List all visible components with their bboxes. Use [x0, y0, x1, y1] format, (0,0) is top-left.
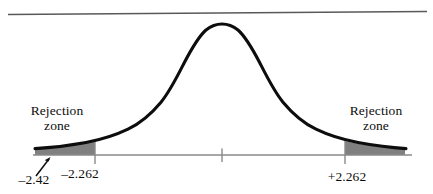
distribution-plot: [0, 0, 433, 194]
rejection-zone-label-right: Rejection zone: [333, 104, 419, 133]
rejection-zone-right-line1: Rejection: [350, 103, 403, 118]
rejection-zone-label-left: Rejection zone: [14, 104, 100, 133]
top-divider-rule: [8, 12, 427, 15]
test-statistic-label: –2.42: [6, 173, 62, 188]
rejection-zone-left-line2: zone: [14, 119, 100, 134]
statistics-figure: Rejection zone Rejection zone –2.262 +2.…: [0, 0, 433, 194]
rejection-zone-right-line2: zone: [333, 119, 419, 134]
rejection-zone-left-line1: Rejection: [31, 103, 84, 118]
critical-value-right-label: +2.262: [315, 170, 379, 185]
